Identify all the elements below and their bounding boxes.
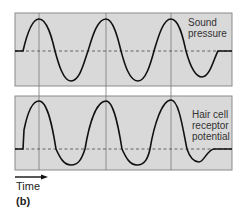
label-line: potential bbox=[192, 131, 230, 142]
sound-pressure-label: Sound pressure bbox=[188, 17, 227, 39]
label-line: Sound bbox=[188, 17, 227, 28]
label-line: pressure bbox=[188, 28, 227, 39]
label-line: receptor bbox=[192, 120, 230, 131]
time-arrow bbox=[15, 175, 48, 180]
figure-part-label: (b) bbox=[16, 195, 30, 207]
figure: Sound pressure Hair cell receptor potent… bbox=[0, 0, 246, 214]
receptor-potential-label: Hair cell receptor potential bbox=[192, 109, 230, 142]
time-axis-label: Time bbox=[16, 180, 40, 192]
label-line: Hair cell bbox=[192, 109, 230, 120]
